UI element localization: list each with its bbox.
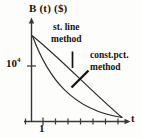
- annotation-const-pct-method-line1: const.pct.: [90, 50, 129, 60]
- y-axis-tick-label: 104: [6, 58, 21, 69]
- annotation-const-pct-method-line2: method: [90, 63, 129, 73]
- annotation-st-line-method-line2: method: [51, 35, 82, 45]
- depreciation-book-value-chart: B (t) ($) t 104 1 st. linemethod const.p…: [0, 0, 141, 138]
- annotation-st-line-method-line1: st. line: [53, 22, 79, 32]
- y-tick-exponent: 4: [17, 56, 21, 64]
- x-axis-arrowhead: [125, 119, 131, 124]
- curve-straight-line-method: [33, 36, 123, 118]
- x-axis-tick-label-1: 1: [39, 123, 45, 134]
- y-tick-mantissa: 10: [6, 57, 17, 69]
- y-axis-title: B (t) ($): [29, 3, 67, 14]
- annotation-st-line-method: st. linemethod: [51, 23, 82, 44]
- y-axis-arrowhead: [29, 18, 34, 24]
- x-axis-title: t: [131, 114, 135, 125]
- annotation-const-pct-method: const.pct.method: [90, 51, 129, 72]
- y-axis: [27, 18, 36, 123]
